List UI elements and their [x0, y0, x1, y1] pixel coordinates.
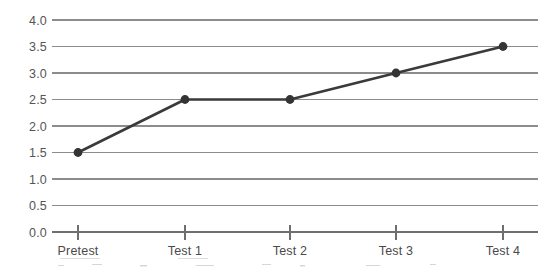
line-chart-figure: 4.0 3.5 3.0 2.5 2.0 1.5 1.0 0.5 0.0 Pret…: [0, 0, 551, 274]
y-tick-label-0-0: 0.0: [29, 226, 47, 240]
x-tick-label-test-1: Test 1: [168, 244, 203, 258]
y-tick-label-2-5: 2.5: [29, 93, 47, 107]
x-tick-label-test-2: Test 2: [273, 244, 308, 258]
chart-canvas: 4.0 3.5 3.0 2.5 2.0 1.5 1.0 0.5 0.0 Pret…: [0, 0, 551, 274]
y-tick-label-3-0: 3.0: [29, 67, 47, 81]
x-tick-label-test-3: Test 3: [379, 244, 414, 258]
y-tick-label-1-5: 1.5: [29, 146, 47, 160]
x-tick-label-test-4: Test 4: [486, 244, 521, 258]
y-tick-label-3-5: 3.5: [29, 40, 47, 54]
y-tick-label-2-0: 2.0: [29, 120, 47, 134]
data-point-test-1: [181, 95, 190, 104]
data-point-pretest: [74, 148, 83, 157]
x-tick-labels-group: Pretest Test 1 Test 2 Test 3 Test 4: [58, 244, 521, 258]
gridlines-group: [52, 20, 538, 206]
data-point-test-3: [392, 69, 401, 78]
y-tick-label-4-0: 4.0: [29, 14, 47, 28]
data-point-test-4: [499, 42, 508, 51]
x-tick-label-pretest: Pretest: [58, 244, 99, 258]
y-tick-labels-group: 4.0 3.5 3.0 2.5 2.0 1.5 1.0 0.5 0.0: [29, 14, 47, 240]
data-point-test-2: [286, 95, 295, 104]
y-tick-label-0-5: 0.5: [29, 199, 47, 213]
y-tick-label-1-0: 1.0: [29, 173, 47, 187]
